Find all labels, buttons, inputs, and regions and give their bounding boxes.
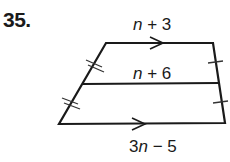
midsegment-line — [83, 83, 218, 84]
midsegment-label: n + 6 — [133, 64, 171, 83]
top-base-label: n + 3 — [133, 15, 171, 34]
bottom-base-label: 3n − 5 — [129, 137, 177, 156]
trapezoid-figure: n + 3 n + 6 3n − 5 — [0, 0, 230, 162]
